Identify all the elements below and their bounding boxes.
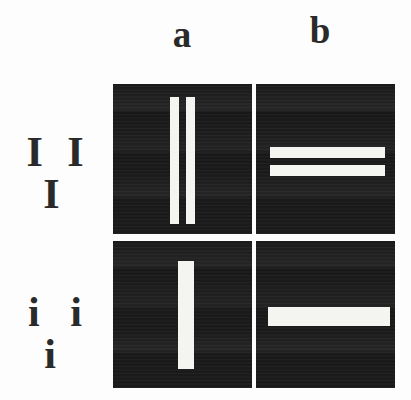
panel-iii-lower-b [256, 241, 395, 388]
vertical-bar [178, 261, 194, 369]
panel-iii-a [113, 84, 252, 234]
column-label-b: b [290, 12, 350, 49]
figure-panel-grid: a b I I I i i i [0, 0, 411, 400]
panel-iii-b [256, 84, 395, 234]
panel-iii-lower-a [113, 241, 252, 388]
horizontal-bar [268, 307, 390, 326]
horizontal-bar [270, 165, 385, 176]
vertical-bar [170, 97, 179, 224]
horizontal-bar [270, 147, 385, 158]
column-label-a: a [152, 16, 212, 53]
row-label-iii-lower: i i i [0, 291, 110, 375]
vertical-bar [186, 97, 195, 224]
row-label-iii-upper: I I I [0, 131, 110, 215]
